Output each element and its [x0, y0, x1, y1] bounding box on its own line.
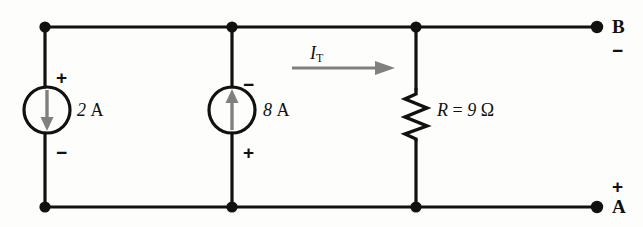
- resistor-equals-sign: =: [453, 100, 463, 120]
- junction-dot-top-left: [39, 21, 50, 32]
- junction-dot-bottom-right: [410, 201, 421, 212]
- terminal-dot-b: [591, 21, 603, 33]
- resistor-value-number: 9: [467, 100, 476, 120]
- source-1-value-unit: A: [91, 100, 104, 120]
- total-current-subscript: T: [316, 51, 323, 65]
- source-1-value-number: 2: [77, 100, 86, 120]
- junction-dot-top-mid: [226, 21, 237, 32]
- terminal-a-label: A: [612, 197, 626, 216]
- circuit-diagram-canvas: + − 2 A − + 8 A R = 9 Ω IT B − A +: [0, 0, 643, 227]
- source-1-value-label: 2 A: [77, 101, 104, 119]
- current-source-1-arrow-down: [41, 90, 54, 131]
- junction-dot-bottom-mid: [226, 201, 237, 212]
- terminal-dot-a: [591, 201, 603, 213]
- total-current-arrow: [292, 61, 395, 75]
- source-1-plus-sign: +: [56, 68, 67, 87]
- resistor-unit-ohm: Ω: [481, 100, 494, 120]
- resistor-value-label: R = 9 Ω: [437, 101, 494, 119]
- source-1-minus-sign: −: [56, 143, 67, 162]
- source-2-value-unit: A: [277, 100, 290, 120]
- total-current-label: IT: [310, 44, 323, 62]
- terminal-b-polarity-sign: −: [612, 41, 623, 60]
- resistor-zigzag-symbol: [405, 89, 427, 140]
- resistor-symbol: R: [437, 100, 448, 120]
- source-2-plus-sign: +: [243, 143, 254, 162]
- junction-dot-top-right: [410, 21, 421, 32]
- current-source-2-arrow-up: [226, 89, 239, 130]
- terminal-a-polarity-sign: +: [612, 177, 623, 196]
- junction-dot-bottom-left: [39, 201, 50, 212]
- source-2-value-number: 8: [263, 100, 272, 120]
- terminal-b-label: B: [612, 17, 625, 36]
- source-2-minus-sign: −: [243, 75, 254, 94]
- source-2-value-label: 8 A: [263, 101, 290, 119]
